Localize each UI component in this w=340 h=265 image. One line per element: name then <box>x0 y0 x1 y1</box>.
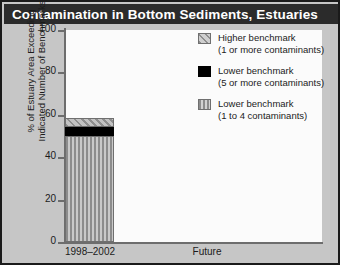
legend-item-lower-benchmark-5-or-more: Lower benchmark (5 or more contaminants) <box>198 65 324 91</box>
legend-line1: Lower benchmark <box>218 98 324 110</box>
chart-title-bar: Contamination in Bottom Sediments, Estua… <box>4 4 340 24</box>
y-tick-label-20: 20 <box>8 193 56 204</box>
y-tick-0 <box>58 242 65 244</box>
bar-segment-higher-benchmark <box>65 118 114 127</box>
y-tick-100 <box>58 30 65 32</box>
legend-item-text: Higher benchmark (1 or more contaminants… <box>218 32 324 55</box>
legend-line2: (1 to 4 contaminants) <box>218 110 324 122</box>
y-tick-20 <box>58 200 65 202</box>
x-tick-label-1998-2002: 1998–2002 <box>35 246 145 257</box>
page-title: Contamination in Bottom Sediments, Estua… <box>4 7 318 22</box>
y-axis-title-line2: Indicated Number of Benchmarks <box>36 0 47 171</box>
legend-line1: Lower benchmark <box>218 65 324 77</box>
hatch-swatch-icon <box>198 33 211 44</box>
y-tick-40 <box>58 157 65 159</box>
legend-line2: (5 or more contaminants) <box>218 77 324 89</box>
x-axis-line <box>64 242 323 244</box>
legend-line2: (1 or more contaminants) <box>218 44 324 56</box>
legend-item-higher-benchmark: Higher benchmark (1 or more contaminants… <box>198 32 324 58</box>
x-tick-label-future: Future <box>152 246 262 257</box>
vertical-stripe-swatch-icon <box>198 99 211 110</box>
chart-figure: Contamination in Bottom Sediments, Estua… <box>0 0 340 265</box>
black-swatch-icon <box>198 66 211 77</box>
y-tick-label-0: 0 <box>8 235 56 246</box>
chart-legend: Higher benchmark (1 or more contaminants… <box>198 32 324 131</box>
legend-line1: Higher benchmark <box>218 32 324 44</box>
bar-segment-lower-benchmark-5-or-more <box>65 127 114 136</box>
legend-item-lower-benchmark-1-to-4: Lower benchmark (1 to 4 contaminants) <box>198 98 324 124</box>
y-tick-80 <box>58 72 65 74</box>
y-axis-title: % of Estuary Area Exceeding Indicated Nu… <box>25 0 47 171</box>
bar-segment-lower-benchmark-1-to-4 <box>65 136 114 242</box>
legend-item-text: Lower benchmark (1 to 4 contaminants) <box>218 98 324 121</box>
y-tick-60 <box>58 115 65 117</box>
y-axis-title-line1: % of Estuary Area Exceeding <box>25 0 36 171</box>
legend-item-text: Lower benchmark (5 or more contaminants) <box>218 65 324 88</box>
